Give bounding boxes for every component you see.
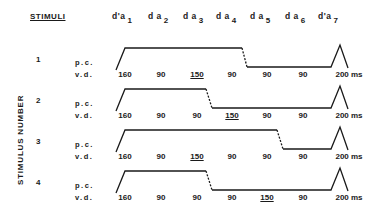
- vd-label: v.d.: [75, 111, 93, 120]
- duration-value-final: 200 ms: [335, 152, 362, 161]
- duration-value: 160: [118, 152, 131, 161]
- duration-value: 90: [263, 70, 272, 79]
- stimulus-number-3: 3: [36, 137, 40, 146]
- duration-value: 90: [299, 152, 308, 161]
- duration-value-stressed: 150: [190, 70, 203, 79]
- duration-value: 160: [118, 193, 131, 202]
- duration-value: 90: [193, 111, 202, 120]
- duration-value: 160: [118, 111, 131, 120]
- duration-value: 160: [118, 70, 131, 79]
- duration-value: 90: [263, 111, 272, 120]
- stimulus-number-2: 2: [36, 96, 40, 105]
- duration-value-final: 200 ms: [335, 111, 362, 120]
- duration-value: 90: [157, 111, 166, 120]
- duration-value: 90: [228, 193, 237, 202]
- duration-value: 90: [193, 193, 202, 202]
- pitch-contours: [0, 0, 378, 213]
- vd-label: v.d.: [75, 193, 93, 202]
- stimulus-number-1: 1: [36, 55, 40, 64]
- pc-label: p.c.: [75, 58, 94, 67]
- duration-value-stressed: 150: [260, 193, 273, 202]
- duration-value-stressed: 150: [225, 111, 238, 120]
- pc-label: p.c.: [75, 181, 94, 190]
- vd-label: v.d.: [75, 152, 93, 161]
- pc-label: p.c.: [75, 99, 94, 108]
- duration-value-final: 200 ms: [335, 193, 362, 202]
- duration-value: 90: [157, 70, 166, 79]
- duration-value: 90: [157, 193, 166, 202]
- duration-value: 90: [157, 152, 166, 161]
- duration-value-stressed: 150: [190, 152, 203, 161]
- duration-value: 90: [228, 152, 237, 161]
- duration-value: 90: [228, 70, 237, 79]
- stimulus-number-4: 4: [36, 178, 40, 187]
- vd-label: v.d.: [75, 70, 93, 79]
- duration-value: 90: [263, 152, 272, 161]
- pc-label: p.c.: [75, 140, 94, 149]
- duration-value-final: 200 ms: [335, 70, 362, 79]
- duration-value: 90: [299, 70, 308, 79]
- duration-value: 90: [299, 111, 308, 120]
- duration-value: 90: [299, 193, 308, 202]
